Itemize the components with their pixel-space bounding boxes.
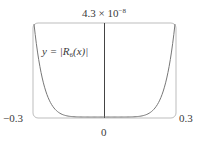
y-max-label: 4.3 × 10−8 [82, 5, 126, 19]
curve-label: y = |R6(x)| [42, 45, 88, 61]
x-tick-left: −0.3 [3, 112, 23, 124]
remainder-plot: 4.3 × 10−8 y = |R6(x)| −0.3 0.3 0 [0, 0, 202, 147]
x-tick-zero: 0 [101, 126, 107, 138]
x-tick-right: 0.3 [179, 112, 193, 124]
plot-svg [0, 0, 202, 147]
